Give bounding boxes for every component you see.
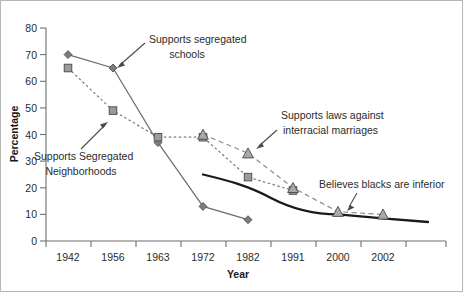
annot-segregated-schools-line1: Supports segregated: [149, 33, 247, 45]
y-tick-label: 10: [25, 208, 37, 220]
annot-interracial-marriages-line2: interracial marriages: [283, 124, 378, 136]
x-tick-label: 1942: [56, 251, 80, 263]
series-supports-laws-against-interracial-marriages: [198, 129, 389, 219]
series-markers-triangle: [198, 129, 389, 219]
x-tick-label: 2000: [326, 251, 350, 263]
x-axis-tick-labels: 1942 1956 1963 1972 1982 1991 2000 2002: [56, 251, 395, 263]
annot-segregated-neighborhoods-leader: [81, 125, 105, 149]
annot-segregated-schools-arrowhead: [117, 62, 125, 69]
x-tick-label: 1972: [191, 251, 215, 263]
annot-segregated-neighborhoods-line2: Neighborhoods: [45, 165, 116, 177]
percentage-by-year-line-chart: 0 10 20 30 40 50 60 70 80 1942 1956 1963…: [1, 1, 463, 292]
annot-segregated-neighborhoods-line1: Supports Segregated: [34, 150, 133, 162]
y-tick-label: 20: [25, 182, 37, 194]
x-tick-label: 2002: [371, 251, 395, 263]
y-axis-ticks: [40, 28, 46, 241]
y-tick-label: 60: [25, 75, 37, 87]
y-tick-label: 0: [31, 235, 37, 247]
annot-segregated-schools: Supports segregated schools: [117, 33, 247, 68]
x-axis-title: Year: [227, 268, 249, 280]
annot-blacks-inferior-leader: [349, 193, 357, 207]
chart-frame: 0 10 20 30 40 50 60 70 80 1942 1956 1963…: [0, 0, 463, 292]
x-tick-label: 1963: [146, 251, 170, 263]
annot-interracial-marriages: Supports laws against interracial marria…: [256, 109, 384, 149]
y-tick-label: 70: [25, 49, 37, 61]
annot-segregated-schools-leader: [120, 43, 145, 65]
annot-segregated-schools-line2: schools: [169, 48, 205, 60]
y-tick-label: 80: [25, 22, 37, 34]
annot-segregated-neighborhoods-arrowhead: [100, 122, 108, 129]
x-tick-label: 1991: [281, 251, 305, 263]
annot-blacks-inferior-line1: Believes blacks are inferior: [319, 178, 445, 190]
x-tick-label: 1956: [101, 251, 125, 263]
annot-interracial-marriages-line1: Supports laws against: [281, 109, 384, 121]
y-axis-title: Percentage: [8, 106, 20, 163]
y-axis-tick-labels: 0 10 20 30 40 50 60 70 80: [25, 22, 37, 247]
x-axis-ticks: [46, 241, 446, 247]
x-tick-label: 1982: [236, 251, 260, 263]
y-tick-label: 40: [25, 129, 37, 141]
y-tick-label: 50: [25, 102, 37, 114]
annot-segregated-neighborhoods: Supports Segregated Neighborhoods: [34, 122, 133, 177]
annot-blacks-inferior-arrowhead: [347, 205, 355, 211]
annot-interracial-marriages-arrowhead: [256, 143, 264, 150]
